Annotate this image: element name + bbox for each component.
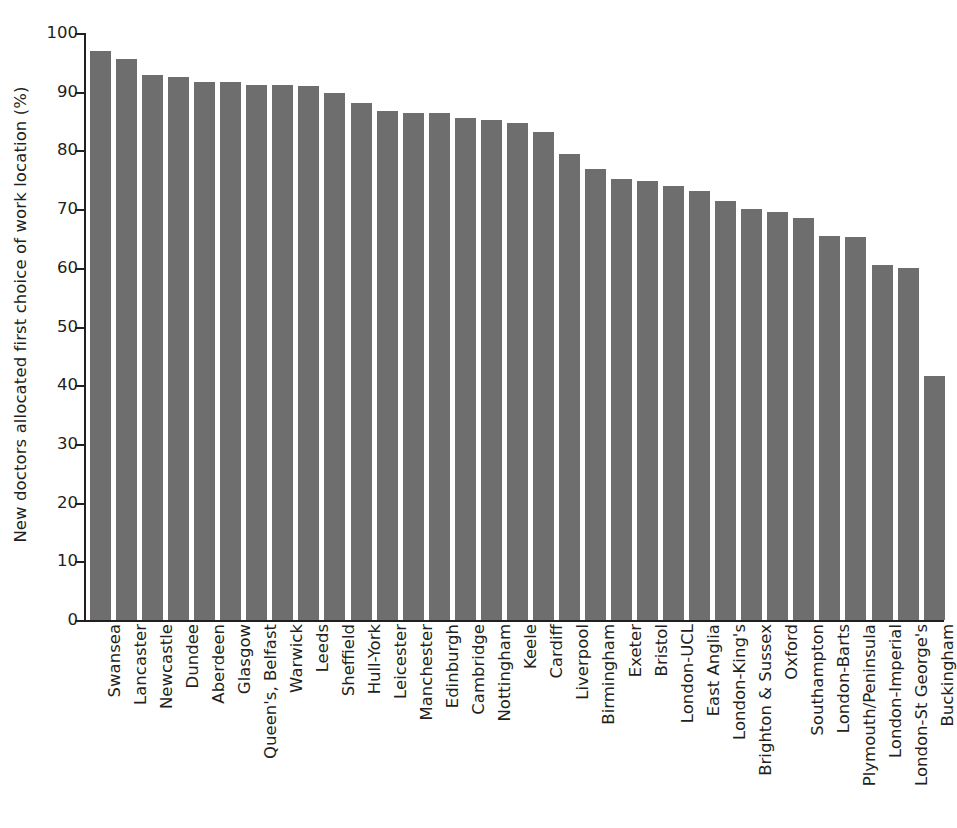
x-tick-label-text: Birmingham: [601, 624, 618, 725]
x-tick-label: Bristol: [648, 624, 665, 676]
y-tick-mark: [75, 33, 84, 35]
x-tick-label: London-Barts: [830, 624, 847, 733]
bar: [220, 82, 241, 620]
x-tick-label-text: Queen's, Belfast: [263, 624, 280, 759]
x-tick-label-text: Dundee: [185, 624, 202, 688]
y-tick-mark: [75, 327, 84, 329]
x-tick-label: Swansea: [101, 624, 118, 697]
x-tick-label: Dundee: [179, 624, 196, 688]
y-tick-mark: [75, 385, 84, 387]
y-tick-label: 0: [38, 612, 78, 629]
bar: [168, 77, 189, 620]
bar: [715, 201, 736, 620]
x-tick-label-text: Plymouth/Peninsula: [862, 624, 879, 786]
x-tick-label: Hull-York: [361, 624, 378, 694]
x-tick-label-text: Brighton & Sussex: [758, 624, 775, 776]
x-tick-label-text: Exeter: [628, 624, 645, 677]
x-tick-label-text: Warwick: [289, 624, 306, 693]
y-tick-mark: [75, 620, 84, 622]
y-tick-mark: [75, 268, 84, 270]
y-tick-mark: [75, 561, 84, 563]
x-tick-label: Nottingham: [491, 624, 508, 722]
y-axis-title-text: New doctors allocated first choice of wo…: [11, 86, 30, 542]
bar: [403, 113, 424, 620]
x-tick-label-text: Lancaster: [133, 624, 150, 705]
x-tick-label: Liverpool: [569, 624, 586, 700]
x-tick-label-text: Glasgow: [237, 624, 254, 694]
bar: [741, 209, 762, 620]
bar: [767, 212, 788, 620]
x-tick-label-text: Southampton: [810, 624, 827, 736]
bar: [481, 120, 502, 620]
bar: [507, 123, 528, 620]
bar: [819, 236, 840, 620]
y-tick-mark: [75, 503, 84, 505]
x-tick-label-text: Swansea: [107, 624, 124, 697]
x-tick-label-text: Manchester: [419, 624, 436, 721]
x-tick-label: Brighton & Sussex: [752, 624, 769, 776]
x-tick-label-text: London-King's: [732, 624, 749, 740]
y-tick-label: 10: [38, 553, 78, 570]
bar: [90, 51, 111, 620]
x-tick-label-text: London-Barts: [836, 624, 853, 733]
x-tick-label: Cambridge: [465, 624, 482, 715]
plot-area: [84, 33, 944, 620]
bar: [793, 218, 814, 620]
x-tick-label: Leicester: [387, 624, 404, 699]
x-tick-label: London-UCL: [674, 624, 691, 723]
bar: [116, 59, 137, 620]
x-axis-tick-labels: SwanseaLancasterNewcastleDundeeAberdeenG…: [86, 624, 946, 828]
bar: [872, 265, 893, 620]
x-tick-label-text: Newcastle: [159, 624, 176, 709]
x-tick-label: Queen's, Belfast: [257, 624, 274, 759]
y-axis-tick-labels: 0102030405060708090100: [38, 0, 78, 628]
x-tick-label: Edinburgh: [439, 624, 456, 708]
y-tick-label: 20: [38, 494, 78, 511]
x-tick-label: Sheffield: [335, 624, 352, 696]
x-tick-label-text: Hull-York: [367, 624, 384, 694]
x-tick-label: Leeds: [309, 624, 326, 672]
x-tick-label: Plymouth/Peninsula: [856, 624, 873, 786]
y-tick-label: 50: [38, 318, 78, 335]
bar: [898, 268, 919, 620]
x-tick-label: Oxford: [778, 624, 795, 680]
y-tick-mark: [75, 209, 84, 211]
x-tick-label-text: Liverpool: [575, 624, 592, 700]
bar: [533, 132, 554, 620]
bar: [924, 376, 945, 620]
x-tick-label: London-St George's: [908, 624, 925, 786]
x-tick-label-text: Bristol: [654, 624, 671, 676]
y-tick-label: 70: [38, 201, 78, 218]
x-tick-label: Southampton: [804, 624, 821, 736]
y-tick-label: 100: [38, 25, 78, 42]
bar: [298, 86, 319, 620]
y-tick-mark: [75, 150, 84, 152]
x-tick-label: London-Imperial: [882, 624, 899, 758]
x-tick-label: Warwick: [283, 624, 300, 693]
x-tick-label-text: Oxford: [784, 624, 801, 680]
x-tick-label: Lancaster: [127, 624, 144, 705]
bar: [324, 93, 345, 620]
bar: [689, 191, 710, 620]
bars-layer: [86, 33, 944, 620]
x-tick-label-text: London-Imperial: [888, 624, 905, 758]
bar: [637, 181, 658, 620]
x-tick-label: Glasgow: [231, 624, 248, 694]
x-tick-label: Cardiff: [543, 624, 560, 679]
y-tick-label: 40: [38, 377, 78, 394]
bar: [272, 85, 293, 620]
y-tick-label: 80: [38, 142, 78, 159]
x-axis-line: [84, 620, 944, 622]
x-tick-label-text: Cardiff: [549, 624, 566, 679]
x-tick-label: East Anglia: [700, 624, 717, 716]
x-tick-label: Manchester: [413, 624, 430, 721]
x-tick-label-text: East Anglia: [706, 624, 723, 716]
bar: [194, 82, 215, 620]
y-tick-label: 90: [38, 83, 78, 100]
y-tick-label: 60: [38, 260, 78, 277]
x-tick-label-text: Leicester: [393, 624, 410, 699]
bar: [351, 103, 372, 620]
bar: [377, 111, 398, 620]
y-tick-mark: [75, 444, 84, 446]
